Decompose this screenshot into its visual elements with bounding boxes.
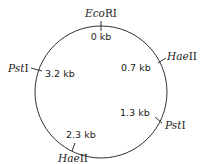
haeii-2.3-position: 2.3 kb bbox=[66, 129, 96, 140]
haeii-2.3-tick bbox=[72, 143, 75, 151]
psti-3.2-position: 3.2 kb bbox=[45, 68, 75, 79]
plasmid-circle bbox=[35, 26, 167, 158]
haeii-2.3-label: HaeII bbox=[57, 152, 88, 164]
haeii-0.7-label: HaeII bbox=[166, 50, 197, 62]
psti-3.2-label: PstI bbox=[7, 62, 29, 74]
psti-3.2-tick bbox=[31, 68, 42, 71]
psti-1.3-label: PstI bbox=[164, 119, 186, 131]
haeii-0.7-position: 0.7 kb bbox=[121, 62, 151, 73]
plasmid-map: EcoRI 0 kb HaeII 0.7 kb PstI 1.3 kb HaeI… bbox=[0, 0, 202, 164]
ecori-label: EcoRI bbox=[84, 7, 117, 19]
psti-1.3-position: 1.3 kb bbox=[120, 107, 150, 118]
ecori-position: 0 kb bbox=[91, 31, 112, 42]
